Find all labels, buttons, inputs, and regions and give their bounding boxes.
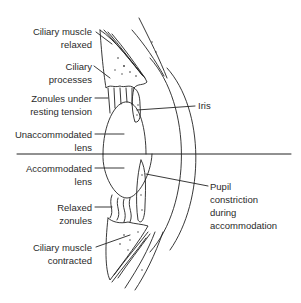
label-ciliary-muscle-relaxed: Ciliary muscle relaxed: [33, 25, 92, 51]
label-pupil-constriction: Pupil constriction during accommodation: [210, 180, 277, 232]
label-ciliary-processes: Ciliary processes: [49, 60, 92, 86]
label-iris: Iris: [198, 99, 211, 112]
iris-lower: [137, 160, 146, 222]
label-ciliary-muscle-contracted: Ciliary muscle contracted: [33, 241, 92, 267]
label-accommodated-lens: Accommodated lens: [26, 162, 92, 188]
ciliary-body-lower: [106, 218, 148, 280]
ciliary-body-upper: [100, 30, 147, 88]
label-relaxed-zonules: Relaxed zonules: [57, 201, 92, 227]
label-unaccommodated-lens: Unaccommodated lens: [15, 128, 92, 154]
cornea-inner: [150, 58, 182, 252]
sclera-upper-outer: [139, 18, 167, 78]
label-zonules-resting-tension: Zonules under resting tension: [30, 92, 92, 118]
